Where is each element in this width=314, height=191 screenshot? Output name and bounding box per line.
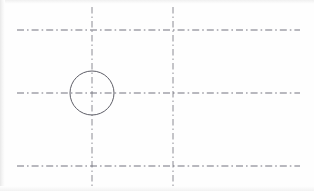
horizontal-centerline-group (17, 30, 300, 166)
drawing-sheet (0, 0, 314, 191)
vertical-centerline-group (92, 7, 173, 186)
drawing-geometry (0, 0, 314, 191)
